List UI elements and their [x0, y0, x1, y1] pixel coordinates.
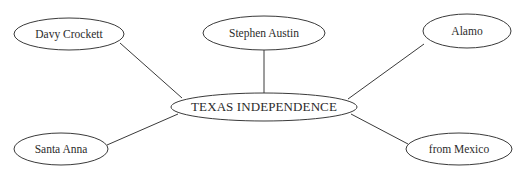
node-label-stephen-austin: Stephen Austin	[229, 27, 299, 40]
node-label-santa-anna: Santa Anna	[35, 143, 88, 155]
concept-map-canvas: Davy Crockett Stephen Austin Alamo TEXAS…	[0, 0, 522, 176]
edge-santa-anna-to-center	[107, 114, 178, 145]
node-texas-independence[interactable]: TEXAS INDEPENDENCE	[171, 93, 357, 121]
node-alamo[interactable]: Alamo	[423, 14, 511, 48]
edge-davy-crockett-to-center	[120, 43, 182, 98]
node-label-davy-crockett: Davy Crockett	[35, 28, 103, 41]
node-label-from-mexico: from Mexico	[429, 143, 490, 155]
node-label-alamo: Alamo	[451, 25, 483, 37]
edge-from-mexico-to-center	[351, 114, 408, 144]
node-label-texas-independence: TEXAS INDEPENDENCE	[191, 99, 337, 114]
node-stephen-austin[interactable]: Stephen Austin	[203, 16, 325, 50]
node-davy-crockett[interactable]: Davy Crockett	[14, 18, 124, 50]
node-from-mexico[interactable]: from Mexico	[406, 133, 512, 165]
concept-map-diagram: Davy Crockett Stephen Austin Alamo TEXAS…	[0, 0, 522, 176]
edge-alamo-to-center	[348, 44, 424, 99]
node-santa-anna[interactable]: Santa Anna	[14, 133, 108, 165]
